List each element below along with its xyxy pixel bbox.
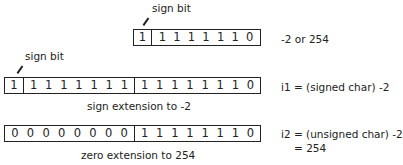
register-16bit-unsigned: 0 0 0 0 0 0 0 0 1 1 1 1 1 1 1 0	[4, 125, 261, 142]
bit: 0	[243, 78, 258, 93]
bit: 1	[102, 78, 117, 93]
zero-extension-caption: zero extension to 254	[81, 149, 195, 161]
zero-extension-bits: 0 0 0 0 0 0 0 0	[5, 126, 134, 141]
bit: 0	[85, 126, 101, 141]
sign-extension-caption: sign extension to -2	[87, 100, 191, 112]
bit: 1	[5, 78, 23, 93]
low-byte-bits: 1 1 1 1 1 1 1 0	[134, 126, 260, 141]
bit: 1	[41, 78, 56, 93]
value-description-bottom-line1: i2 = (unsigned char) -2	[281, 128, 403, 140]
bit: 0	[116, 126, 132, 141]
value-description-middle: i1 = (signed char) -2	[281, 81, 389, 93]
bit: 1	[152, 78, 167, 93]
bit: 1	[71, 78, 86, 93]
bit: 0	[38, 126, 54, 141]
bit: 0	[243, 126, 258, 141]
bit: 1	[117, 78, 132, 93]
extension-bits: 1 1 1 1 1 1 1	[23, 78, 134, 93]
bit: 1	[170, 30, 185, 45]
bit: 0	[101, 126, 117, 141]
bit: 1	[213, 30, 228, 45]
sign-bit-pointer-middle	[17, 65, 23, 73]
low-byte-bits: 1 1 1 1 1 1 1 0	[134, 78, 260, 93]
bit: 1	[198, 78, 213, 93]
bit: 1	[152, 126, 167, 141]
bit: 1	[137, 78, 152, 93]
sign-bit-label-top: sign bit	[152, 2, 191, 14]
bit: 1	[228, 30, 243, 45]
bit: 1	[155, 30, 170, 45]
bit: 1	[228, 78, 243, 93]
bit: 1	[184, 30, 199, 45]
bit: 1	[182, 78, 197, 93]
sign-bit-cell: 1	[134, 30, 151, 45]
bit: 1	[213, 78, 228, 93]
bit: 1	[87, 78, 102, 93]
bit: 0	[70, 126, 86, 141]
value-description-bottom-line2: = 254	[294, 142, 326, 154]
sign-bit-label-middle: sign bit	[25, 50, 64, 62]
bit: 0	[23, 126, 39, 141]
bit: 1	[228, 126, 243, 141]
bit: 0	[54, 126, 70, 141]
sign-bit-cell: 1	[5, 78, 23, 93]
register-8bit: 1 1 1 1 1 1 1 0	[133, 29, 261, 46]
value-description-top: -2 or 254	[281, 33, 329, 45]
bit: 1	[167, 126, 182, 141]
bit: 1	[26, 78, 41, 93]
bit: 1	[137, 126, 152, 141]
bit: 1	[198, 126, 213, 141]
bit: 1	[56, 78, 71, 93]
value-bits: 1 1 1 1 1 1 0	[151, 30, 260, 45]
sign-bit-pointer-top	[143, 17, 149, 25]
bit: 0	[7, 126, 23, 141]
bit: 1	[213, 126, 228, 141]
bit: 1	[167, 78, 182, 93]
register-16bit-signed: 1 1 1 1 1 1 1 1 1 1 1 1 1 1 1 0	[4, 77, 261, 94]
bit: 1	[182, 126, 197, 141]
bit: 1	[199, 30, 214, 45]
bit: 0	[242, 30, 257, 45]
bit: 1	[134, 30, 151, 45]
